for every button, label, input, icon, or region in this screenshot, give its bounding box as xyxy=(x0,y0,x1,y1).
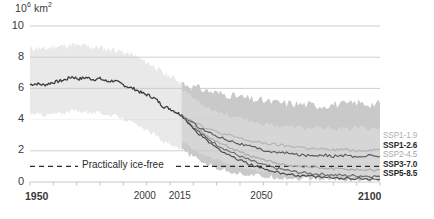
y-tick-0: 0 xyxy=(2,175,24,187)
y-tick-10: 10 xyxy=(2,19,24,31)
legend: SSP1-1.9SSP1-2.6SSP2-4.5SSP3-7.0SSP5-8.5 xyxy=(383,131,417,179)
y-tick-4: 4 xyxy=(2,112,24,124)
legend-item-ssp3-7.0[interactable]: SSP3-7.0 xyxy=(383,160,417,170)
legend-item-ssp1-2.6[interactable]: SSP1-2.6 xyxy=(383,141,417,151)
y-tick-6: 6 xyxy=(2,81,24,93)
legend-item-ssp1-1.9[interactable]: SSP1-1.9 xyxy=(383,131,417,141)
x-tick-2100: 2100 xyxy=(358,190,381,202)
y-tick-2: 2 xyxy=(2,143,24,155)
practically-ice-free-label: Practically ice-free xyxy=(82,159,164,170)
x-tick-1950: 1950 xyxy=(25,190,48,202)
legend-item-ssp5-8.5[interactable]: SSP5-8.5 xyxy=(383,169,417,179)
x-tick-2000: 2000 xyxy=(134,190,156,201)
y-tick-8: 8 xyxy=(2,50,24,62)
sea-ice-extent-chart: 106 km2 1086420 19502000201520502100 Pra… xyxy=(0,0,434,219)
chart-canvas xyxy=(0,0,434,219)
x-tick-2015: 2015 xyxy=(169,190,191,201)
x-tick-2050: 2050 xyxy=(250,190,272,201)
legend-item-ssp2-4.5[interactable]: SSP2-4.5 xyxy=(383,150,417,160)
